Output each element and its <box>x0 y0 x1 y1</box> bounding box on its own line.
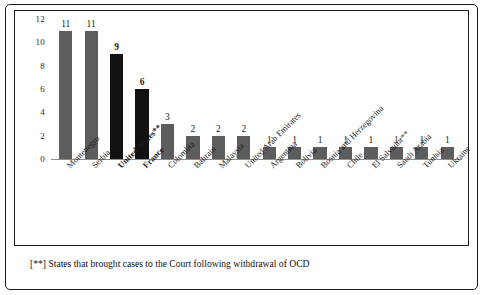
bar-column[interactable]: 9 <box>104 19 129 159</box>
x-axis-labels: MontenegroSerbiaUnited States**FranceCol… <box>53 161 460 247</box>
bar-value-label: 11 <box>61 19 70 29</box>
bar-value-label: 1 <box>445 135 450 145</box>
plot-area: 111196322211111111 MontenegroSerbiaUnite… <box>15 11 468 245</box>
bar-rect[interactable] <box>110 54 123 159</box>
bar-column[interactable]: 11 <box>53 19 78 159</box>
y-axis-tick-label: 10 <box>15 38 45 47</box>
bar-column[interactable]: 1 <box>282 19 307 159</box>
bar-value-label: 2 <box>241 124 246 134</box>
bar-column[interactable]: 2 <box>206 19 231 159</box>
bar-value-label: 2 <box>191 124 196 134</box>
bar-slot: 11 <box>53 19 78 159</box>
bar-slot: 2 <box>206 19 231 159</box>
bar-slot: 2 <box>231 19 256 159</box>
bar-column[interactable]: 1 <box>307 19 332 159</box>
bar-column[interactable]: 2 <box>231 19 256 159</box>
bar-value-label: 2 <box>216 124 221 134</box>
bar-value-label: 6 <box>140 77 145 87</box>
bar-slot: 1 <box>307 19 332 159</box>
bar-column[interactable]: 3 <box>155 19 180 159</box>
bar-value-label: 3 <box>165 112 170 122</box>
y-axis-tick-label: 4 <box>15 108 45 117</box>
bar-value-label: 1 <box>369 135 374 145</box>
bar-rect[interactable] <box>59 31 72 159</box>
y-axis-tick-label: 12 <box>15 15 45 24</box>
bar-column[interactable]: 2 <box>180 19 205 159</box>
bar-slot: 3 <box>155 19 180 159</box>
bar-slot: 2 <box>180 19 205 159</box>
y-axis-tick-label: 0 <box>15 155 45 164</box>
bar-slot: 1 <box>358 19 383 159</box>
y-axis-tick-label: 6 <box>15 85 45 94</box>
plot-frame: 111196322211111111 MontenegroSerbiaUnite… <box>14 10 469 246</box>
bar-value-label: 9 <box>114 42 119 52</box>
bar-value-label: 1 <box>318 135 323 145</box>
figure-container: 111196322211111111 MontenegroSerbiaUnite… <box>0 0 483 295</box>
chart-footnote: [**] States that brought cases to the Co… <box>30 258 310 270</box>
bar-value-label: 11 <box>87 19 96 29</box>
bar-slot: 1 <box>435 19 460 159</box>
y-axis-tick-label: 8 <box>15 61 45 70</box>
bar-column[interactable]: 1 <box>358 19 383 159</box>
bar-slot: 1 <box>282 19 307 159</box>
bar-slot: 9 <box>104 19 129 159</box>
y-axis-tick-label: 2 <box>15 131 45 140</box>
bar-column[interactable]: 1 <box>435 19 460 159</box>
